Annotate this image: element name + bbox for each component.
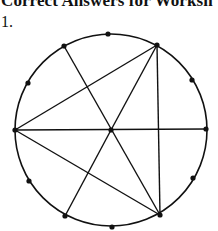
point-right-lower-side (190, 175, 195, 180)
point-right-upper-side (189, 77, 194, 82)
chord-line (157, 45, 160, 215)
point-upper-left (61, 43, 66, 48)
point-right (203, 126, 208, 131)
chord-line (15, 45, 157, 130)
point-left (12, 127, 17, 132)
point-center (108, 127, 113, 132)
chord-line (111, 45, 157, 130)
circle-star-figure (0, 0, 218, 231)
point-left-upper-side (25, 80, 30, 85)
point-lower-left (62, 213, 67, 218)
chord-line (65, 130, 111, 216)
point-left-lower-side (26, 178, 31, 183)
point-upper-right (154, 42, 159, 47)
point-bottom (109, 224, 114, 229)
point-top (105, 31, 110, 36)
point-lower-right (157, 212, 162, 217)
